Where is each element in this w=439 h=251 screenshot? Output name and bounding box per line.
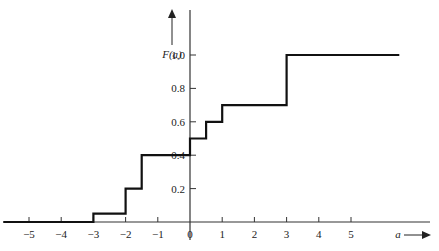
svg-text:0.6: 0.6 — [171, 116, 185, 128]
cdf-line — [3, 55, 399, 222]
svg-text:−1: −1 — [152, 228, 164, 240]
svg-text:−5: −5 — [23, 228, 35, 240]
svg-text:0: 0 — [187, 228, 193, 240]
svg-text:−2: −2 — [120, 228, 132, 240]
svg-text:2: 2 — [252, 228, 258, 240]
svg-text:0.8: 0.8 — [171, 82, 185, 94]
cdf-step-chart: −5−4−3−2−10123450.20.40.60.81.0F(a)a — [0, 0, 439, 251]
svg-text:1: 1 — [219, 228, 225, 240]
svg-text:−3: −3 — [88, 228, 100, 240]
svg-text:−4: −4 — [55, 228, 67, 240]
chart-svg: −5−4−3−2−10123450.20.40.60.81.0F(a)a — [0, 0, 439, 251]
svg-text:0.2: 0.2 — [171, 183, 185, 195]
svg-text:3: 3 — [284, 228, 290, 240]
svg-text:a: a — [395, 228, 401, 240]
svg-text:F(a): F(a) — [161, 48, 182, 61]
svg-text:5: 5 — [348, 228, 354, 240]
svg-text:4: 4 — [316, 228, 322, 240]
